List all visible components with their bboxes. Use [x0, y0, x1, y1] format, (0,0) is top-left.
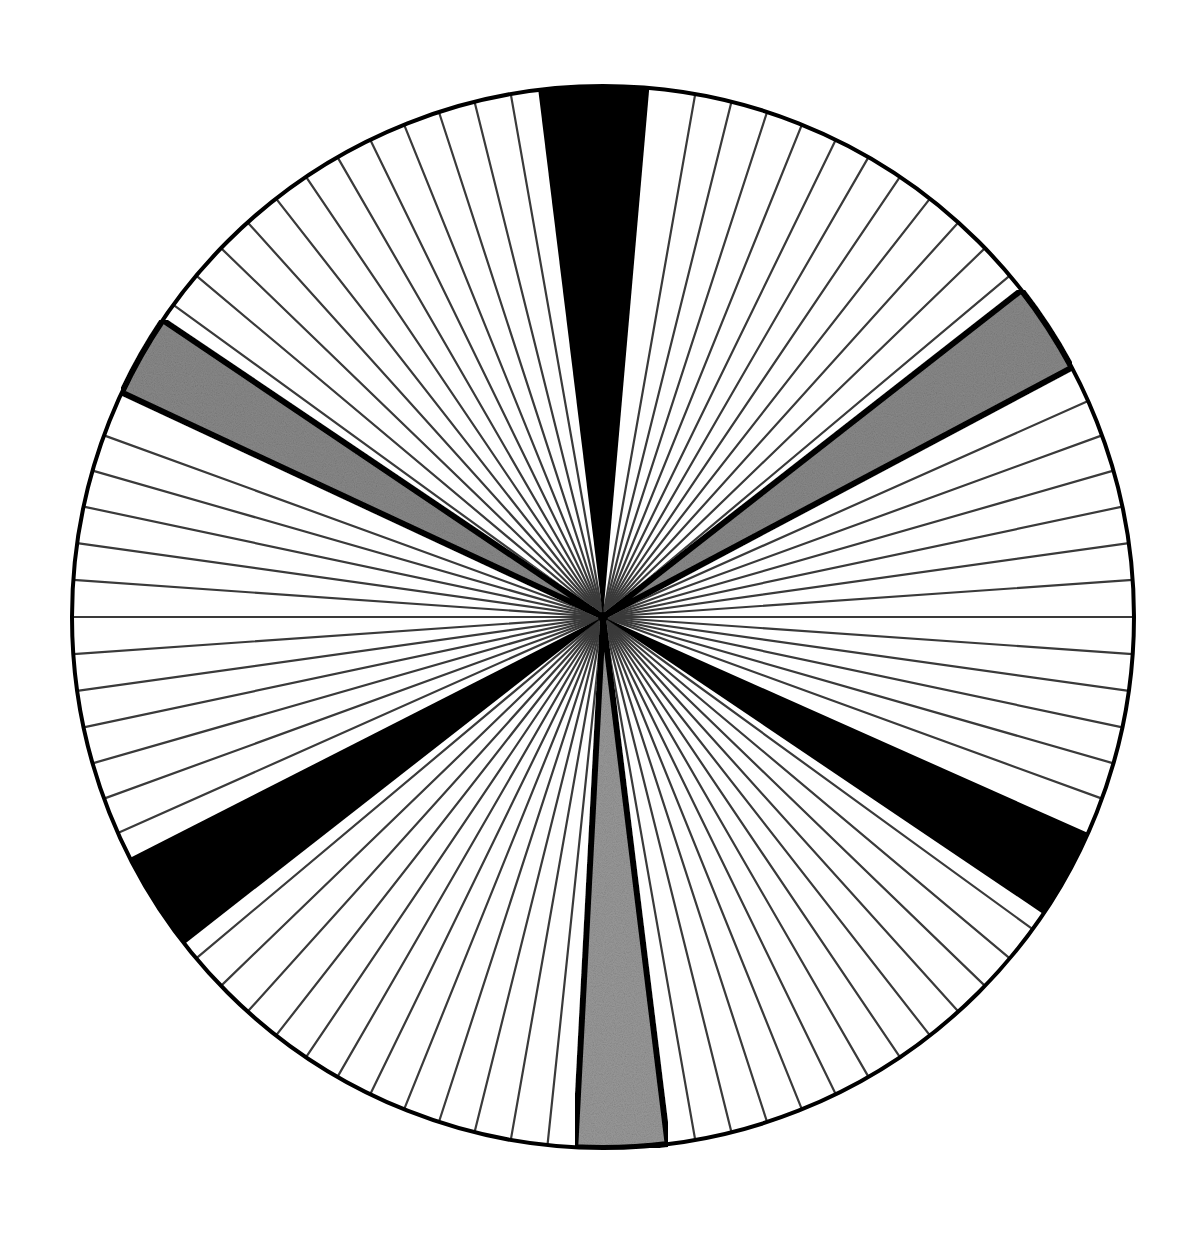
center-hub: [598, 612, 608, 622]
radial-wedge-diagram: [0, 0, 1197, 1242]
black-wedge-top: [538, 86, 649, 617]
radial-line: [603, 617, 1033, 929]
radial-line: [73, 580, 603, 617]
radial-line: [603, 580, 1133, 617]
radial-line: [603, 617, 1133, 654]
radial-line: [276, 199, 603, 617]
radial-line: [603, 617, 930, 1035]
radial-line: [196, 617, 603, 958]
radial-line: [77, 617, 603, 691]
black-wedge-lower-left: [130, 617, 603, 944]
radial-line: [73, 617, 603, 654]
